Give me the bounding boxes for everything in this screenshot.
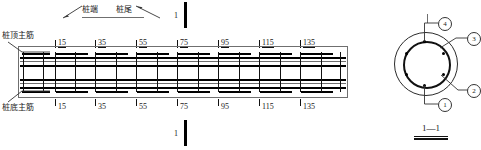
station-label-bottom: 95 [221, 102, 229, 111]
cage-guide-lower [20, 83, 346, 84]
section-cut-label-bottom: 1 [174, 129, 178, 138]
top-short-rebar [137, 53, 169, 55]
stirrup [177, 52, 178, 92]
top-short-rebar [178, 53, 210, 55]
station-tick-foot [300, 99, 301, 106]
station-label-bottom: 15 [58, 102, 66, 111]
station-label-bottom: 55 [139, 102, 147, 111]
bottom-short-rebar [260, 91, 292, 93]
section-caption-rule-thick [414, 138, 448, 140]
bottom-short-rebar [137, 91, 169, 93]
pile-tail-label: 桩尾 [116, 5, 132, 14]
top-short-rebar [301, 53, 333, 55]
stirrup [218, 52, 219, 92]
callout-2: 2 [467, 84, 481, 98]
callout-3: 3 [467, 32, 481, 46]
callout-4: 4 [438, 17, 452, 31]
station-label-bottom: 135 [303, 102, 315, 111]
top-short-rebar [96, 53, 128, 55]
station-label-bottom: 115 [262, 102, 274, 111]
stirrup [55, 52, 56, 92]
stirrup [136, 52, 137, 92]
bottom-short-rebar [96, 91, 128, 93]
longitudinal-rebar-upper-mid [20, 65, 346, 67]
stirrup [340, 52, 341, 92]
top-rebar-label: 桩顶主筋 [2, 31, 34, 40]
stirrup [157, 52, 158, 92]
stirrup [321, 52, 322, 92]
stirrup [198, 52, 199, 92]
section-cut-label-top: 1 [174, 11, 178, 20]
bottom-short-rebar [219, 91, 251, 93]
station-label-bottom: 75 [180, 102, 188, 111]
stirrup [280, 52, 281, 92]
stirrup [75, 52, 76, 92]
drawing-canvas: 桩端 桩尾 1 1 15 35 55 [0, 0, 481, 150]
stirrup [239, 52, 240, 92]
station-tick-foot [95, 99, 96, 106]
station-tick-foot [136, 99, 137, 106]
station-label-bottom: 35 [98, 102, 106, 111]
section-cut-mark-top: 1 [174, 2, 192, 28]
stirrup [300, 52, 301, 92]
cage-guide-upper [20, 61, 346, 62]
stirrup [95, 52, 96, 92]
bottom-short-rebar [301, 91, 333, 93]
section-caption-label: 1—1 [414, 124, 448, 133]
stirrup [43, 52, 44, 92]
cross-section-leaders-icon [378, 14, 481, 120]
cross-section-view: 4 3 2 1 [378, 14, 481, 120]
top-rebar-leader-icon [8, 40, 52, 56]
longitudinal-rebar-bottom [20, 87, 346, 89]
section-cut-bar-bottom [184, 120, 187, 146]
top-short-rebar [219, 53, 251, 55]
callout-1: 1 [438, 98, 452, 112]
bottom-short-rebar [178, 91, 210, 93]
pile-orientation-header: 桩端 桩尾 [62, 4, 182, 20]
section-caption-rule-thin [414, 136, 448, 137]
section-cut-mark-bottom: 1 [174, 120, 192, 146]
section-caption: 1—1 [414, 124, 448, 140]
stirrup [23, 52, 24, 92]
top-rebar-callout: 桩顶主筋 [2, 31, 68, 55]
station-tick-foot [55, 99, 56, 106]
station-tick-foot [177, 99, 178, 106]
section-cut-bar-top [184, 2, 187, 28]
header-underline [82, 17, 144, 18]
longitudinal-rebar-top [20, 57, 346, 59]
station-scale-bottom: 15 35 55 75 95 115 135 [0, 99, 370, 115]
station-tick-foot [218, 99, 219, 106]
longitudinal-rebar-lower-mid [20, 79, 346, 81]
top-short-rebar [260, 53, 292, 55]
pile-outline-right [347, 46, 348, 98]
station-tick-foot [259, 99, 260, 106]
stirrup [116, 52, 117, 92]
stirrup [259, 52, 260, 92]
